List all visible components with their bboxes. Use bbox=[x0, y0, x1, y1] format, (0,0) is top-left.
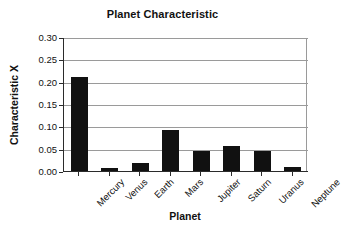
y-axis-tick-mark bbox=[59, 150, 63, 151]
x-axis-tick-label-venus: Venus bbox=[123, 177, 148, 202]
y-axis-tick-mark bbox=[59, 60, 63, 61]
bar-jupiter[interactable] bbox=[193, 151, 210, 171]
x-axis-tick-label-neptune: Neptune bbox=[309, 177, 341, 209]
y-axis-tick-mark bbox=[59, 127, 63, 128]
y-axis-tick-mark bbox=[59, 38, 63, 39]
x-axis-tick-labels: MercuryVenusEarthMarsJupiterSaturnUranus… bbox=[0, 172, 325, 212]
y-axis-tick-labels: 0.300.250.200.150.100.050.00 bbox=[25, 38, 57, 172]
y-axis-tick-mark bbox=[59, 172, 63, 173]
x-axis-tick-label-jupiter: Jupiter bbox=[216, 177, 243, 204]
x-axis-tick-mark bbox=[109, 172, 110, 176]
bar-venus[interactable] bbox=[101, 168, 118, 171]
x-axis-tick-mark bbox=[170, 172, 171, 176]
bar-mars[interactable] bbox=[162, 130, 179, 171]
x-axis-tick-mark bbox=[78, 172, 79, 176]
gridline bbox=[64, 38, 308, 39]
bar-uranus[interactable] bbox=[254, 151, 271, 171]
bar-neptune[interactable] bbox=[284, 167, 301, 171]
y-axis-tick-mark bbox=[59, 105, 63, 106]
x-axis-tick-label-saturn: Saturn bbox=[246, 177, 273, 204]
y-axis-tick-label: 0.10 bbox=[25, 123, 57, 133]
y-axis-tick-label: 0.25 bbox=[25, 56, 57, 66]
bar-saturn[interactable] bbox=[223, 146, 240, 171]
x-axis-tick-mark bbox=[231, 172, 232, 176]
x-axis-tick-label-earth: Earth bbox=[153, 177, 176, 200]
chart-title: Planet Characteristic bbox=[0, 8, 325, 20]
plot-area bbox=[63, 38, 307, 172]
gridline bbox=[64, 83, 308, 84]
y-axis-tick-mark bbox=[59, 83, 63, 84]
bar-mercury[interactable] bbox=[71, 77, 88, 171]
y-axis-tick-label: 0.30 bbox=[25, 33, 57, 43]
x-axis-tick-label-mars: Mars bbox=[183, 177, 205, 199]
gridline bbox=[64, 150, 308, 151]
x-axis-tick-mark bbox=[292, 172, 293, 176]
y-axis-tick-label: 0.15 bbox=[25, 100, 57, 110]
x-axis-tick-label-uranus: Uranus bbox=[277, 177, 305, 205]
y-axis-title: Characteristic X bbox=[8, 65, 20, 145]
y-axis-title-wrapper: Characteristic X bbox=[6, 38, 22, 172]
gridline bbox=[64, 127, 308, 128]
x-axis-tick-mark bbox=[200, 172, 201, 176]
y-axis-tick-label: 0.05 bbox=[25, 145, 57, 155]
gridline bbox=[64, 105, 308, 106]
y-axis-tick-label: 0.20 bbox=[25, 78, 57, 88]
x-axis-tick-mark bbox=[261, 172, 262, 176]
x-axis-tick-label-mercury: Mercury bbox=[95, 177, 126, 208]
x-axis-title: Planet bbox=[63, 210, 307, 222]
bar-earth[interactable] bbox=[132, 163, 149, 171]
gridline bbox=[64, 60, 308, 61]
x-axis-tick-mark bbox=[139, 172, 140, 176]
